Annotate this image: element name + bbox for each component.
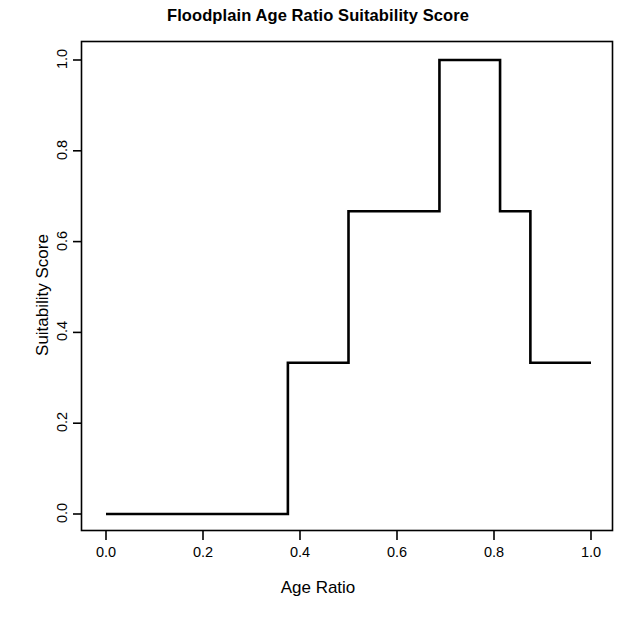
x-axis-label: Age Ratio [0, 578, 636, 598]
x-axis-ticks [106, 531, 591, 540]
y-tick-label: 0.2 [54, 392, 70, 452]
y-tick-label: 1.0 [54, 29, 70, 89]
step-line-series [106, 60, 591, 514]
plot-border [82, 42, 613, 531]
y-axis-ticks [73, 60, 82, 514]
y-tick-label: 0.6 [54, 211, 70, 271]
chart-title: Floodplain Age Ratio Suitability Score [0, 6, 636, 25]
x-tick-label: 0.4 [270, 544, 330, 560]
x-tick-label: 0.8 [464, 544, 524, 560]
x-tick-label: 1.0 [561, 544, 621, 560]
y-tick-label: 0.0 [54, 483, 70, 543]
y-tick-label: 0.8 [54, 120, 70, 180]
x-tick-label: 0.0 [76, 544, 136, 560]
plot-area [0, 0, 636, 621]
x-tick-label: 0.6 [367, 544, 427, 560]
chart-figure: Floodplain Age Ratio Suitability Score 0… [0, 0, 636, 621]
y-axis-label: Suitability Score [33, 145, 53, 445]
x-tick-label: 0.2 [173, 544, 233, 560]
y-tick-label: 0.4 [54, 301, 70, 361]
